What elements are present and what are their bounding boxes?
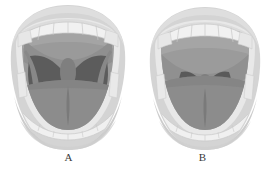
figure-b xyxy=(137,0,274,152)
mouth-diagram-b xyxy=(137,0,274,152)
mouth-diagram-a xyxy=(0,0,137,152)
figure-a-caption: A xyxy=(0,150,137,164)
figure-a xyxy=(0,0,137,152)
figure-b-caption: B xyxy=(134,150,271,164)
illustration-panel: A B xyxy=(0,0,274,175)
